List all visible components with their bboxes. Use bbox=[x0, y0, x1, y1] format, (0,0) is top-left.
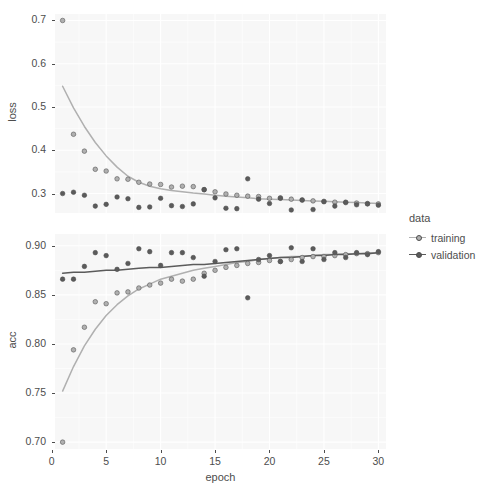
x-tick-mark bbox=[215, 450, 216, 453]
y-tick-mark bbox=[52, 295, 55, 296]
x-tick-mark bbox=[161, 450, 162, 453]
y-tick-mark bbox=[52, 64, 55, 65]
legend-key-validation bbox=[409, 249, 426, 261]
x-tick-label: 25 bbox=[304, 455, 344, 467]
x-tick-mark bbox=[106, 450, 107, 453]
y-tick-label: 0.85 bbox=[8, 288, 46, 300]
x-tick-label: 10 bbox=[141, 455, 181, 467]
y-axis-label-loss: loss bbox=[6, 92, 18, 132]
legend-label-training: training bbox=[431, 232, 465, 244]
y-tick-mark bbox=[52, 393, 55, 394]
y-tick-mark bbox=[52, 150, 55, 151]
legend-label-validation: validation bbox=[431, 249, 475, 261]
x-tick-label: 30 bbox=[358, 455, 398, 467]
y-tick-mark bbox=[52, 246, 55, 247]
y-tick-label: 0.90 bbox=[8, 239, 46, 251]
legend-key-training bbox=[409, 232, 426, 244]
x-axis-label: epoch bbox=[55, 471, 386, 483]
x-tick-label: 15 bbox=[195, 455, 235, 467]
y-tick-mark bbox=[52, 20, 55, 21]
legend-key-point bbox=[416, 252, 422, 258]
y-tick-mark bbox=[52, 107, 55, 108]
x-tick-mark bbox=[324, 450, 325, 453]
legend-key-point bbox=[416, 235, 422, 241]
y-tick-mark bbox=[52, 194, 55, 195]
x-tick-mark bbox=[269, 450, 270, 453]
y-tick-label: 0.70 bbox=[8, 435, 46, 447]
x-tick-label: 0 bbox=[32, 455, 72, 467]
y-axis-label-acc: acc bbox=[6, 320, 18, 360]
y-tick-label: 0.75 bbox=[8, 386, 46, 398]
y-tick-label: 0.4 bbox=[8, 143, 46, 155]
x-tick-mark bbox=[52, 450, 53, 453]
y-tick-label: 0.7 bbox=[8, 13, 46, 25]
x-tick-label: 5 bbox=[86, 455, 126, 467]
y-tick-mark bbox=[52, 442, 55, 443]
x-tick-label: 20 bbox=[249, 455, 289, 467]
y-tick-label: 0.3 bbox=[8, 187, 46, 199]
chart-root: 0.30.40.50.60.7loss0.700.750.800.850.90a… bbox=[0, 0, 487, 503]
y-tick-label: 0.6 bbox=[8, 57, 46, 69]
x-tick-mark bbox=[378, 450, 379, 453]
legend-title: data bbox=[409, 212, 430, 224]
y-tick-mark bbox=[52, 344, 55, 345]
